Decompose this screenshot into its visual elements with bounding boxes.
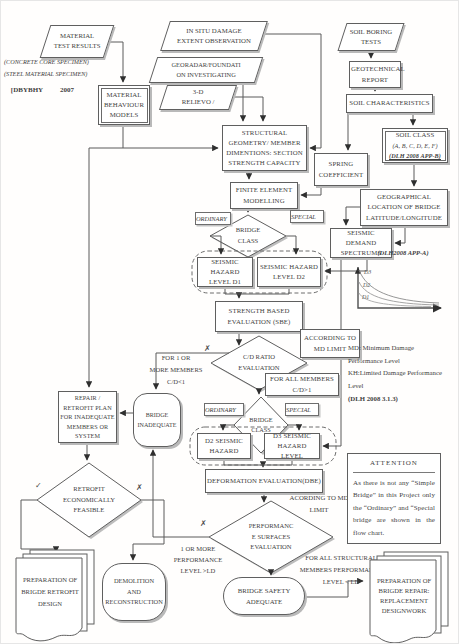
label: IN SITU DAMAGE EXTENT OBSERVATION: [166, 26, 262, 46]
check-mark: ✓: [32, 482, 44, 490]
strength-based-evaluation-box: STRENGTH BASED EVALUATION (SBE): [215, 301, 303, 332]
attention-note-box: ATTENTION As there is not any “Simple Br…: [347, 453, 441, 544]
label: SEISMIC HAZARD LEVEL D1: [199, 257, 251, 288]
label: SOIL CHARACTERISTICS: [348, 98, 431, 108]
attention-body: As there is not any “Simple Bridge” in t…: [353, 477, 435, 540]
label: SEISMIC HAZARD LEVEL D2: [259, 262, 319, 282]
soil-characteristics-box: SOIL CHARACTERISTICS: [346, 94, 433, 113]
spectrum-curve-label-d3: D3: [363, 269, 371, 275]
soil-boring-tests-parallelogram: SOIL BORING TESTS: [337, 23, 404, 51]
document-label: PREPARATION OF BRIGDE RETROFIT DESIGN: [18, 562, 82, 622]
label: BRIDGE CLASS: [212, 225, 284, 246]
geotechnical-report-box: GEOTECHNICAL REPORT: [349, 61, 401, 88]
label: MATERIAL TEST RESULTS: [46, 31, 108, 51]
label: SPRING COEFFICIENT: [316, 159, 366, 179]
in-situ-damage-parallelogram: IN SITU DAMAGE EXTENT OBSERVATION: [160, 21, 268, 51]
label: STRENGTH BASED EVALUATION (SBE): [217, 306, 301, 326]
preparation-repair-design-document: PREPARATION OF BRIGDE REPAIR: REPLACEMEN…: [365, 551, 453, 644]
special-label-2: SPECIAL: [285, 403, 319, 416]
label: SOIL CLASS: [384, 130, 446, 141]
geographical-location-box: GEOGRAPHICAL LOCATION OF BRIDGE LATITUDE…: [360, 189, 448, 226]
label: DEFORMATION EVALUATION(DBE): [207, 476, 321, 486]
label: (DLH 2008 3.1.3): [348, 394, 428, 405]
md-note-reference: (DLH 2008 3.1.3): [348, 394, 428, 405]
relievo-parallelogram: 3-D RELIEVO /: [159, 85, 237, 110]
label: GEOTECHNICAL REPORT: [351, 64, 399, 84]
label: PREPARATION OF BRIGDE REPAIR: REPLACEMEN…: [372, 576, 436, 617]
material-behaviour-models-box: MATERIAL BEHAVIOUR MODELS: [98, 85, 150, 125]
retrofit-feasible-diamond: RETROFIT ECONOMICALLY FEASIBLE: [39, 468, 139, 532]
structural-geometry-box: STRUCTURAL GEOMETRY/ MEMBER DIMENTIONS: …: [222, 125, 307, 171]
soil-class-reference: (DLH 2008 APP-B): [384, 151, 446, 161]
for-one-or-more-members-label: FOR 1 OR MORE MEMBERS C/D<1: [135, 352, 217, 388]
label: DEMOLITION AND RECONSTRUCTION: [105, 576, 163, 608]
label: FOR 1 OR MORE MEMBERS C/D<1: [135, 352, 217, 388]
label: GEORADAR/FOUNDATI ON INVESTIGATING: [154, 60, 258, 79]
label: [DBYBHY: [7, 85, 47, 96]
label: RETROFIT ECONOMICALLY FEASIBLE: [39, 484, 139, 516]
label: C/D RATIO EVALUATION: [213, 352, 305, 373]
label: ✓: [32, 482, 44, 490]
repair-retrofit-plan-box: REPAIR / RETROFIT PLAN FOR INADEQUATE ME…: [58, 391, 117, 443]
deformation-evaluation-box: DEFORMATION EVALUATION(DBE): [205, 469, 323, 493]
material-test-results-parallelogram: MATERIAL TEST RESULTS: [40, 25, 115, 58]
label: FINITE ELEMENT MODELLING: [232, 185, 296, 205]
cross-mark-2: ✗: [133, 484, 145, 492]
georadar-foundation-parallelogram: GEORADAR/FOUNDATI ON INVESTIGATING: [149, 57, 263, 83]
label: (DLH2008 APP-A): [365, 248, 441, 258]
label: ✗: [133, 484, 145, 492]
special-label-1: SPECIAL: [290, 210, 324, 223]
label: BRIDGE INADEQUATE: [136, 410, 178, 430]
label: 3-D RELIEVO /: [164, 87, 232, 107]
spring-coefficient-box: SPRING COEFFICIENT: [314, 153, 368, 186]
soil-class-values: (A, B, C, D, E, F): [384, 141, 446, 151]
label: (CONCRETE CORE SPECIMEN) (STEEL MATERIAL…: [4, 56, 108, 80]
bridge-class-diamond-1: BRIDGE CLASS: [212, 217, 284, 255]
demolition-reconstruction-terminator: DEMOLITION AND RECONSTRUCTION: [102, 563, 166, 621]
label: ✗: [197, 520, 209, 528]
cross-mark-3: ✗: [197, 520, 209, 528]
label: MATERIAL BEHAVIOUR MODELS: [100, 90, 148, 121]
label: PERFORMANC E SURFACES EVALUATION: [213, 521, 329, 553]
md-performance-note: MD: Minimum Damage Performance Level KH:…: [348, 342, 456, 392]
finite-element-modelling-box: FINITE ELEMENT MODELLING: [230, 182, 298, 209]
label: PREPARATION OF BRIGDE RETROFIT DESIGN: [18, 574, 82, 611]
label: MD: Minimum Damage Performance Level KH:…: [348, 342, 456, 392]
performance-surfaces-diamond: PERFORMANC E SURFACES EVALUATION: [213, 505, 329, 569]
label: STRUCTURAL GEOMETRY/ MEMBER DIMENTIONS: …: [224, 128, 305, 169]
cd-ratio-evaluation-diamond: C/D RATIO EVALUATION: [213, 339, 305, 387]
label: SPECIAL: [286, 406, 318, 413]
bridge-inadequate-terminator: BRIDGE INADEQUATE: [133, 393, 181, 447]
document-label: PREPARATION OF BRIGDE REPAIR: REPLACEMEN…: [372, 562, 436, 630]
soil-class-box: SOIL CLASS (A, B, C, D, E, F) (DLH 2008 …: [382, 128, 448, 163]
label: GEOGRAPHICAL LOCATION OF BRIDGE LATITUDE…: [362, 192, 446, 223]
preparation-retrofit-design-document: PREPARATION OF BRIGDE RETROFIT DESIGN: [11, 549, 99, 643]
flowchart-page: D3 D2 D1 MATERIAL TEST RESULTS (CONCRETE…: [0, 0, 459, 644]
label: 2007: [47, 85, 87, 96]
bridge-safety-adequate-terminator: BRIDGE SAFETY ADEQUATE: [223, 577, 305, 615]
cross-mark-1: ✗: [201, 345, 213, 353]
label: BRIDGE CLASS: [236, 415, 286, 435]
spectrum-plot: D3 D2 D1: [358, 267, 441, 308]
spectrum-curve-label-d1: D1: [361, 294, 369, 300]
label: ✗: [201, 345, 213, 353]
label: BRIDGE SAFETY ADEQUATE: [226, 585, 302, 607]
label: REPAIR / RETROFIT PLAN FOR INADEQUATE ME…: [60, 393, 115, 441]
dbybhy-reference: [DBYBHY 2007: [7, 85, 87, 96]
attention-title: ATTENTION: [353, 458, 435, 473]
bridge-class-diamond-2: BRIDGE CLASS: [236, 405, 286, 445]
specimen-note: (CONCRETE CORE SPECIMEN) (STEEL MATERIAL…: [4, 56, 108, 80]
label: SOIL BORING TESTS: [343, 27, 399, 47]
label: SPECIAL: [291, 213, 323, 220]
seismic-hazard-d2-box: SEISMIC HAZARD LEVEL D2: [257, 257, 321, 287]
spectrum-curve-label-d2: D2: [362, 282, 370, 288]
dlh-app-a-reference: (DLH2008 APP-A): [365, 248, 441, 258]
seismic-hazard-d1-box: SEISMIC HAZARD LEVEL D1: [197, 257, 253, 287]
